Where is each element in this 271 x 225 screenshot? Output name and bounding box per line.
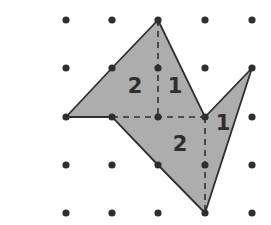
grid-dot bbox=[248, 64, 255, 71]
grid-dot bbox=[154, 16, 161, 23]
grid-dot bbox=[62, 113, 69, 120]
grid-dot bbox=[108, 16, 115, 23]
grid-dot bbox=[108, 113, 115, 120]
grid-dot bbox=[62, 161, 69, 168]
grid-dot bbox=[154, 64, 161, 71]
grid-dot bbox=[154, 113, 161, 120]
grid-dot bbox=[248, 209, 255, 216]
grid-dot bbox=[248, 161, 255, 168]
area-label-bottom: 2 bbox=[173, 132, 188, 156]
grid-dot bbox=[108, 209, 115, 216]
grid-dot bbox=[201, 209, 208, 216]
grid-dot bbox=[201, 16, 208, 23]
grid-dot bbox=[62, 64, 69, 71]
grid-dot bbox=[108, 161, 115, 168]
grid-dot bbox=[108, 64, 115, 71]
grid-dot bbox=[248, 16, 255, 23]
grid-dot bbox=[154, 161, 161, 168]
dot-grid-diagram: 2 1 1 2 bbox=[0, 0, 271, 225]
area-label-right-wing: 1 bbox=[216, 111, 231, 135]
grid-dot bbox=[248, 113, 255, 120]
grid-dot bbox=[201, 64, 208, 71]
grid-dot bbox=[201, 113, 208, 120]
area-label-top-left: 2 bbox=[128, 74, 143, 98]
grid-dot bbox=[154, 209, 161, 216]
grid-dot bbox=[62, 209, 69, 216]
grid-dot bbox=[201, 161, 208, 168]
grid-dot bbox=[62, 16, 69, 23]
area-label-top-right: 1 bbox=[168, 74, 183, 98]
